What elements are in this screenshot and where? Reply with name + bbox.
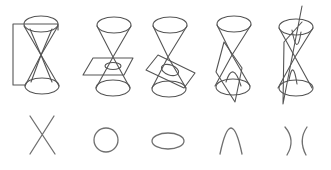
section-lines: [30, 29, 52, 82]
section-hyperbola-lower: [289, 70, 297, 84]
curve-ellipse: [152, 133, 184, 149]
cone-bottom-rim: [96, 80, 130, 96]
curve-parabola: [220, 128, 242, 154]
section-circle: [105, 63, 121, 70]
cone-bottom-rim: [279, 80, 313, 96]
curve-intersecting-lines: [30, 116, 55, 154]
cone-bottom-rim: [25, 78, 59, 94]
cutting-plane: [13, 24, 58, 85]
conic-sections-diagram: [0, 0, 331, 170]
cone-generators: [152, 26, 187, 88]
cone-top-rim: [279, 19, 313, 35]
curve-circle: [94, 128, 118, 152]
figure-ellipse: [146, 17, 195, 97]
cutting-plane: [216, 42, 242, 102]
cone-top-rim: [217, 16, 251, 32]
curve-hyperbola-left: [285, 127, 291, 155]
diagram-canvas: [0, 0, 331, 170]
cone-bottom-rim: [152, 81, 186, 97]
figure-degenerate-lines: [13, 16, 59, 94]
section-curves-row: [30, 116, 307, 155]
figure-parabola: [215, 16, 251, 102]
figure-hyperbola: [278, 6, 313, 104]
cone-top-rim: [97, 17, 131, 33]
cone-top-rim: [153, 17, 187, 33]
curve-hyperbola-right: [302, 127, 307, 155]
cone-bottom-rim: [216, 79, 250, 95]
cone-generators: [96, 26, 131, 88]
cutting-plane: [146, 55, 195, 88]
figure-circle: [83, 17, 133, 96]
